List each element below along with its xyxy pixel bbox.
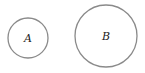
circle-b-label: B	[101, 30, 110, 43]
diagram-canvas: A B	[0, 0, 145, 73]
circle-a-label: A	[23, 32, 32, 45]
